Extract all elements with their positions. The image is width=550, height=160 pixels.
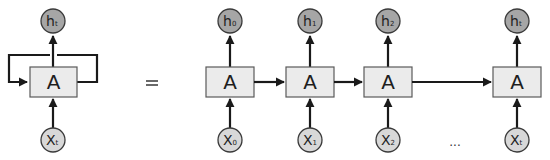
svg-text:A: A (47, 70, 61, 94)
equals-sign (146, 81, 158, 85)
input-node-xt: Xt (41, 128, 65, 152)
timestep-t: ht A Xt (493, 9, 541, 152)
rnn-cell-folded: A (30, 67, 77, 97)
svg-text:A: A (223, 70, 237, 94)
svg-text:A: A (381, 70, 395, 94)
svg-text:A: A (510, 70, 524, 94)
timestep-0: h0 A X0 (206, 9, 254, 152)
timestep-2: h2 A X2 (364, 9, 412, 152)
unrolled-rnn: h0 A X0 h1 A X1 h2 A (206, 9, 541, 152)
timestep-1: h1 A X1 (286, 9, 334, 152)
ellipsis: ... (449, 135, 460, 149)
svg-text:A: A (303, 70, 317, 94)
rnn-diagram: ht A Xt h0 A X0 (0, 0, 550, 160)
output-node-ht: ht (41, 9, 65, 33)
folded-rnn: ht A Xt (9, 9, 97, 152)
